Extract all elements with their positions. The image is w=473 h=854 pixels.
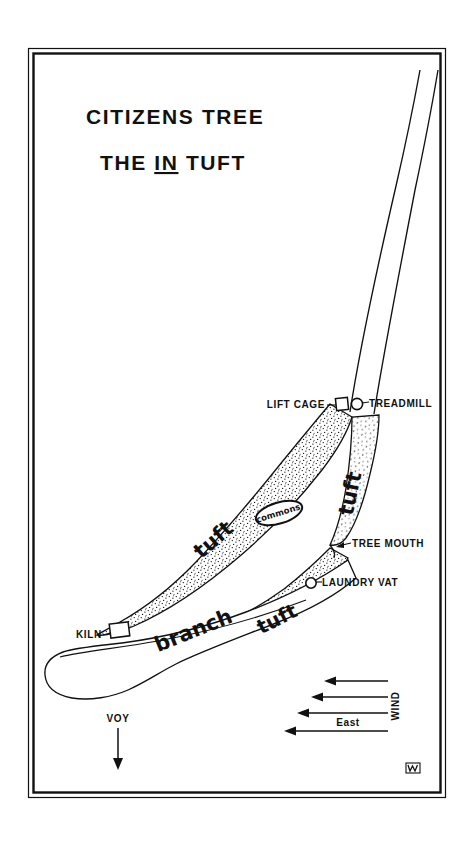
artist-monogram-icon (406, 763, 420, 773)
diagram-plate: CITIZENS TREE THE IN TUFT (0, 0, 473, 854)
signature-layer (0, 0, 473, 854)
